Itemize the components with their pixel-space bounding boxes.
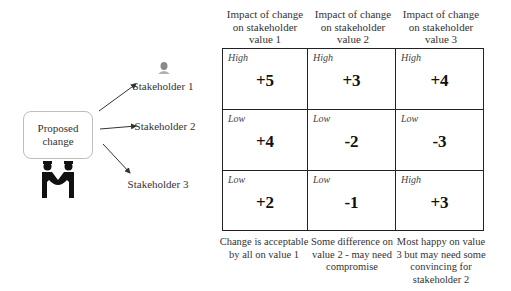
column-caption-2: Some difference on value 2 - may need co…: [304, 236, 400, 274]
person-bust-icon: [157, 61, 171, 75]
impact-score: -1: [308, 193, 395, 213]
impact-level: High: [401, 52, 421, 63]
impact-score: +4: [396, 71, 483, 91]
impact-level: Low: [313, 174, 330, 185]
grid-cell: Low -3: [396, 110, 483, 171]
impact-level: Low: [228, 113, 245, 124]
stakeholder-3-label: Stakeholder 3: [123, 178, 193, 190]
arrow-to-stakeholder-3: [103, 144, 130, 173]
arrows: [0, 0, 220, 291]
column-header-2: Impact of change on stakeholder value 2: [310, 8, 396, 46]
impact-grid: High +5 High +3 High +4 Low +4 Low -2 Lo…: [222, 48, 484, 231]
grid-cell: Low -1: [308, 171, 396, 230]
impact-score: -3: [396, 132, 483, 152]
grid-cell: Low -2: [308, 110, 396, 171]
grid-cell: High +3: [396, 171, 483, 230]
column-caption-1: Change is acceptable by all on value 1: [214, 236, 314, 261]
impact-score: +2: [223, 193, 307, 213]
stakeholder-1-label: Stakeholder 1: [128, 80, 198, 92]
impact-score: -2: [308, 132, 395, 152]
column-caption-3: Most happy on value 3 but may need some …: [393, 236, 489, 286]
impact-level: Low: [401, 113, 418, 124]
impact-score: +3: [308, 71, 395, 91]
impact-level: High: [313, 52, 333, 63]
impact-level: High: [228, 52, 248, 63]
impact-level: Low: [228, 174, 245, 185]
grid-cell: High +3: [308, 49, 396, 110]
impact-score: +5: [223, 71, 307, 91]
grid-cell: Low +2: [223, 171, 308, 230]
impact-level: Low: [313, 113, 330, 124]
impact-level: High: [401, 174, 421, 185]
grid-cell: High +4: [396, 49, 483, 110]
impact-score: +3: [396, 193, 483, 213]
column-header-3: Impact of change on stakeholder value 3: [398, 8, 484, 46]
stakeholder-2-label: Stakeholder 2: [130, 120, 200, 132]
grid-cell: Low +4: [223, 110, 308, 171]
impact-score: +4: [223, 132, 307, 152]
grid-cell: High +5: [223, 49, 308, 110]
column-header-1: Impact of change on stakeholder value 1: [222, 8, 308, 46]
